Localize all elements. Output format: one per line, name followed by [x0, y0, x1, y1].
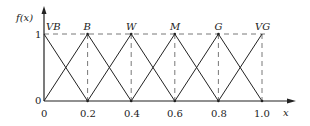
peak-label-vg: VG: [255, 21, 270, 32]
y-tick-0: 0: [35, 95, 41, 106]
peak-label-vb: VB: [46, 21, 61, 32]
x-tick-0: 0: [41, 108, 47, 119]
x-tick-04: 0.4: [124, 108, 140, 119]
y-axis-arrow-icon: [42, 6, 47, 14]
x-tick-08: 0.8: [211, 108, 227, 119]
series-lines: [44, 34, 262, 101]
x-axis-label: x: [283, 107, 289, 118]
peak-label-b: B: [83, 21, 91, 32]
peak-label-m: M: [169, 21, 181, 32]
x-axis-arrow-icon: [287, 99, 296, 104]
peak-label-w: W: [126, 21, 137, 32]
x-tick-10: 1.0: [254, 108, 270, 119]
x-tick-06: 0.6: [167, 108, 183, 119]
membership-function-chart: f(x) x 1 0 VB B W M G VG 0 0.2 0.4 0.6 0…: [0, 0, 310, 126]
y-tick-1: 1: [35, 29, 41, 40]
y-axis-label: f(x): [15, 12, 33, 23]
x-tick-02: 0.2: [80, 108, 96, 119]
reference-lines: [44, 34, 266, 101]
peak-label-g: G: [215, 21, 223, 32]
